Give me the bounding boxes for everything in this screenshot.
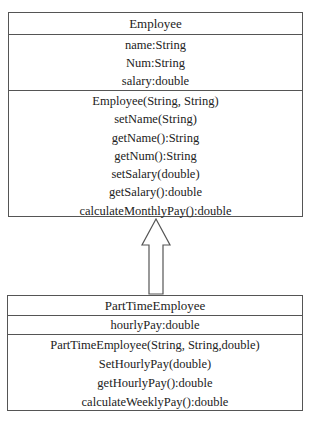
- method: SetHourlyPay(double): [8, 355, 302, 374]
- class-parttimeemployee: PartTimeEmployee hourlyPay:double PartTi…: [7, 295, 303, 411]
- method: Employee(String, String): [9, 92, 302, 110]
- attributes-section: name:String Num:String salary:double: [9, 34, 302, 90]
- method: getHourlyPay():double: [8, 374, 302, 393]
- method: setName(String): [9, 110, 302, 128]
- attribute: name:String: [9, 36, 302, 54]
- method: getSalary():double: [9, 183, 302, 201]
- method: calculateWeeklyPay():double: [8, 393, 302, 412]
- attribute: Num:String: [9, 54, 302, 72]
- class-name: PartTimeEmployee: [8, 296, 302, 315]
- class-name: Employee: [9, 13, 302, 34]
- method: PartTimeEmployee(String, String,double): [8, 336, 302, 355]
- attribute: hourlyPay:double: [8, 316, 302, 334]
- methods-section: PartTimeEmployee(String, String,double) …: [8, 334, 302, 412]
- methods-section: Employee(String, String) setName(String)…: [9, 90, 302, 220]
- method: getName():String: [9, 129, 302, 147]
- class-employee: Employee name:String Num:String salary:d…: [8, 12, 303, 217]
- attribute: salary:double: [9, 72, 302, 90]
- inheritance-arrow-icon: [140, 217, 174, 295]
- method: getNum():String: [9, 147, 302, 165]
- method: setSalary(double): [9, 165, 302, 183]
- attributes-section: hourlyPay:double: [8, 315, 302, 334]
